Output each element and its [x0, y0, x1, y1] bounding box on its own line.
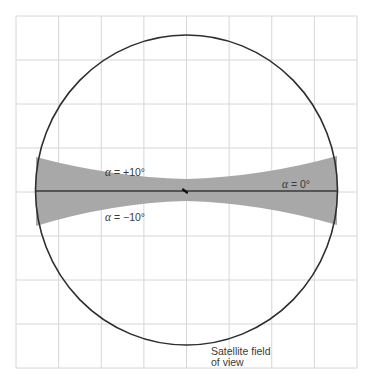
satellite-fov-diagram: α = +10° α = −10° α = 0° Satellite field… [0, 0, 371, 383]
label-alpha-zero: α = 0° [282, 178, 310, 190]
label-alpha-plus-10: α = +10° [105, 166, 145, 178]
label-of-view: of view [211, 356, 244, 368]
label-alpha-minus-10: α = −10° [105, 211, 145, 223]
